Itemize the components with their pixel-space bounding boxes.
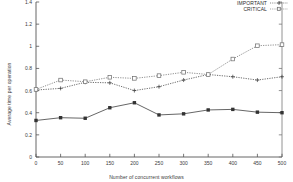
- data-point-normal: [280, 111, 283, 114]
- y-tick-label: 0.2: [14, 132, 32, 138]
- data-point-normal: [133, 101, 136, 104]
- y-tick-label: 1: [14, 43, 32, 49]
- y-tick-label: 0.8: [14, 65, 32, 71]
- x-tick-label: 400: [224, 160, 242, 166]
- y-tick-label: 0.6: [14, 88, 32, 94]
- data-point-critical: [157, 74, 161, 78]
- x-tick-label: 350: [199, 160, 217, 166]
- data-point-critical: [280, 43, 284, 47]
- data-point-important: [280, 75, 284, 79]
- data-point-critical: [206, 73, 210, 77]
- data-point-normal: [207, 108, 210, 111]
- chart-container: NORMAL IMPORTANT CRITICAL Number of conc…: [0, 0, 293, 182]
- x-tick-label: 450: [248, 160, 266, 166]
- x-tick-label: 300: [175, 160, 193, 166]
- legend-key-important: [269, 0, 289, 6]
- data-point-critical: [231, 57, 235, 61]
- x-axis-title: Number of concurrent workflows: [0, 174, 293, 180]
- y-tick-label: 1.4: [14, 0, 32, 5]
- data-point-critical: [108, 75, 112, 79]
- data-point-important: [157, 85, 161, 89]
- x-tick-label: 500: [273, 160, 291, 166]
- x-tick-label: 200: [125, 160, 143, 166]
- legend-label-critical: CRITICAL: [243, 6, 267, 12]
- x-tick-label: 150: [101, 160, 119, 166]
- data-point-normal: [231, 108, 234, 111]
- x-tick-label: 250: [150, 160, 168, 166]
- legend-key-critical: [269, 6, 289, 12]
- data-point-important: [132, 89, 136, 93]
- data-point-critical: [59, 78, 63, 82]
- series-line-normal: [36, 103, 282, 121]
- data-point-critical: [83, 80, 87, 84]
- y-axis-title: Average time per operation: [6, 39, 12, 149]
- x-tick-label: 0: [27, 160, 45, 166]
- x-tick-label: 100: [76, 160, 94, 166]
- data-point-critical: [133, 77, 137, 81]
- data-point-important: [231, 75, 235, 79]
- series-line-critical: [36, 45, 282, 90]
- x-tick-label: 50: [52, 160, 70, 166]
- data-point-critical: [182, 71, 186, 75]
- data-point-critical: [256, 44, 260, 48]
- data-point-normal: [157, 113, 160, 116]
- data-point-normal: [182, 112, 185, 115]
- data-point-important: [108, 81, 112, 85]
- plot-area: [0, 0, 293, 182]
- y-tick-label: 0.4: [14, 110, 32, 116]
- data-point-normal: [108, 106, 111, 109]
- data-point-normal: [256, 110, 259, 113]
- data-point-normal: [84, 117, 87, 120]
- data-point-critical: [34, 88, 38, 92]
- data-point-important: [59, 86, 63, 90]
- data-point-important: [182, 78, 186, 82]
- data-point-normal: [59, 116, 62, 119]
- y-tick-label: 1.2: [14, 21, 32, 27]
- chart-legend: NORMAL IMPORTANT CRITICAL: [237, 0, 289, 13]
- data-point-normal: [34, 119, 37, 122]
- data-point-important: [255, 78, 259, 82]
- legend-entry-critical: CRITICAL: [237, 6, 289, 12]
